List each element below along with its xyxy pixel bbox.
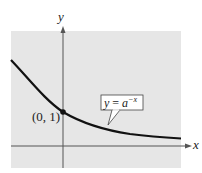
eq-exponent: −x: [128, 95, 137, 104]
chart-canvas: [0, 0, 202, 173]
y-axis-label: y: [58, 9, 64, 25]
x-axis-arrow-icon: [185, 144, 192, 149]
point-marker: [60, 109, 66, 115]
y-axis-arrow-icon: [61, 26, 66, 33]
eq-equals: =: [109, 96, 122, 110]
point-label: (0, 1): [32, 109, 60, 125]
x-axis-label: x: [193, 137, 199, 153]
equation-label: y = a−x: [104, 95, 137, 111]
plot-background: [11, 31, 181, 168]
